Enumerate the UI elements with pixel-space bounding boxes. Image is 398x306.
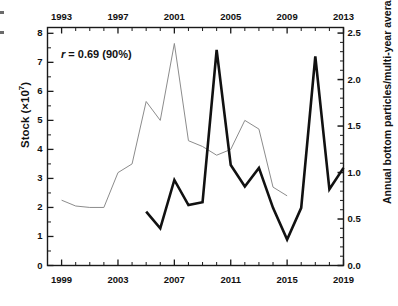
left-tick-7: 7 — [37, 56, 42, 67]
bottom-tick-2003: 2003 — [107, 274, 128, 285]
right-tick-0.5: 0.5 — [348, 213, 361, 224]
left-axis-title-exponent: 7 — [17, 86, 26, 90]
left-tick-3: 3 — [37, 172, 42, 183]
top-tick-2005: 2005 — [220, 11, 241, 22]
bottom-tick-2015: 2015 — [277, 274, 298, 285]
top-tick-2009: 2009 — [277, 11, 298, 22]
right-tick-2.5: 2.5 — [348, 27, 361, 38]
top-tick-1993: 1993 — [51, 11, 72, 22]
left-axis-title: Stock (×107) — [17, 45, 31, 185]
series-group — [62, 43, 344, 239]
right-tick-2.0: 2.0 — [348, 74, 361, 85]
left-tick-4: 4 — [37, 143, 42, 154]
annotation-value: = 0.69 (90%) — [65, 48, 131, 60]
left-tick-5: 5 — [37, 114, 42, 125]
bottom-tick-2019: 2019 — [333, 274, 354, 285]
left-axis-title-close: ) — [19, 82, 31, 86]
left-tick-1: 1 — [37, 230, 42, 241]
axes-group — [48, 28, 344, 266]
left-tick-2: 2 — [37, 201, 42, 212]
chart-figure: 199319972001200520092013 199920032007201… — [0, 0, 398, 306]
chart-canvas — [0, 0, 398, 306]
left-tick-6: 6 — [37, 85, 42, 96]
left-tick-8: 8 — [37, 27, 42, 38]
bottom-tick-2007: 2007 — [164, 274, 185, 285]
bottom-tick-1999: 1999 — [51, 274, 72, 285]
series-line-1 — [146, 50, 343, 240]
right-tick-1.0: 1.0 — [348, 167, 361, 178]
right-axis-title: Annual bottom particles/multi-year avera… — [381, 4, 393, 204]
correlation-annotation: r = 0.69 (90%) — [61, 48, 132, 60]
left-tick-0: 0 — [37, 260, 42, 271]
top-tick-2001: 2001 — [164, 11, 185, 22]
top-tick-2013: 2013 — [333, 11, 354, 22]
right-tick-1.5: 1.5 — [348, 120, 361, 131]
top-tick-1997: 1997 — [107, 11, 128, 22]
left-axis-title-base: Stock (×10 — [19, 90, 31, 148]
right-tick-0.0: 0.0 — [348, 260, 361, 271]
bottom-tick-2011: 2011 — [220, 274, 241, 285]
